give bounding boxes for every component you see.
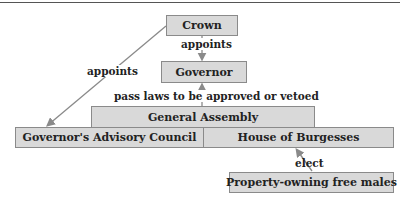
node-property-owning-free-males: Property-owning free males xyxy=(229,172,394,193)
node-general-assembly: General Assembly xyxy=(91,106,315,128)
label-assembly-pass-laws: pass laws to be approved or vetoed xyxy=(114,90,319,102)
label-voters-elect: elect xyxy=(295,157,324,169)
label-crown-appoints-governor: appoints xyxy=(181,38,232,50)
label-crown-appoints-council: appoints xyxy=(87,65,138,77)
node-advisory-council: Governor's Advisory Council xyxy=(15,127,204,148)
node-crown: Crown xyxy=(166,15,238,36)
node-house-of-burgesses: House of Burgesses xyxy=(203,127,394,148)
node-governor: Governor xyxy=(161,61,247,83)
